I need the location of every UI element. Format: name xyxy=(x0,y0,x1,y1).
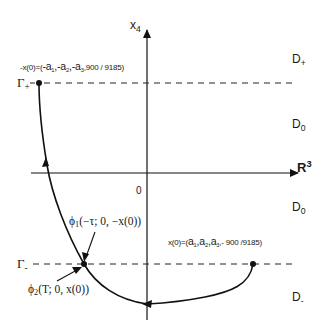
neg-x0-prefix: -x(0)=( xyxy=(20,63,42,72)
d0-lower-sub: 0 xyxy=(301,206,306,216)
trajectory-phi1 xyxy=(39,83,147,304)
phi2-pointer xyxy=(57,270,77,281)
phi1-pointer-arrow-icon xyxy=(82,252,89,262)
trajectory-up-arrow-icon xyxy=(42,157,49,167)
gamma-minus-main: Γ xyxy=(17,256,25,271)
region-d0-lower: D0 xyxy=(292,201,305,215)
neg-x0-a1: -a xyxy=(42,60,51,72)
region-d-plus: D+ xyxy=(292,53,306,67)
x0-label: x(0)=(a1,a2,a3,- 900 /9185) xyxy=(168,236,262,248)
neg-x0-a3: -a xyxy=(72,60,81,72)
r3-axis-label: R3 xyxy=(297,160,312,174)
r3-sup: 3 xyxy=(306,159,311,169)
region-d-minus: D- xyxy=(292,291,304,305)
x0-tail: ,- 900 /9185) xyxy=(219,238,262,247)
d-plus-main: D xyxy=(292,52,301,66)
neg-x0-label: -x(0)=(-a1,-a2,-a3,900 / 9185) xyxy=(20,61,124,73)
gamma-minus-label: Γ- xyxy=(17,257,28,273)
gamma-plus-main: Γ xyxy=(17,75,25,90)
x4-axis-label: x4 xyxy=(130,19,141,33)
gamma-plus-sub: + xyxy=(25,82,30,92)
phi1-args: (−τ; 0, −x(0)) xyxy=(79,215,141,227)
phi2-pointer-arrow-icon xyxy=(72,267,82,274)
phi1-pointer xyxy=(86,232,95,257)
gamma-plus-label: Γ+ xyxy=(17,76,30,92)
d0-upper-sub: 0 xyxy=(301,123,306,133)
d-plus-sub: + xyxy=(301,58,306,68)
neg-x0-tail: ,900 / 9185) xyxy=(84,63,124,72)
point-x0 xyxy=(250,261,256,267)
x4-sub: 4 xyxy=(136,24,141,34)
origin-label: 0 xyxy=(136,186,142,196)
phi2-args: (T; 0, x(0)) xyxy=(38,283,89,295)
d0-upper-main: D xyxy=(292,117,301,131)
point-neg-x0 xyxy=(36,80,42,86)
trajectory-phi2 xyxy=(147,264,253,304)
d-minus-sub: - xyxy=(301,296,304,306)
gamma-minus-sub: - xyxy=(25,263,28,273)
phi2-label: ϕ2(T; 0, x(0)) xyxy=(28,284,89,298)
region-d0-upper: D0 xyxy=(292,118,305,132)
r3-main: R xyxy=(297,160,306,175)
d-minus-main: D xyxy=(292,290,301,304)
d0-lower-main: D xyxy=(292,200,301,214)
phi1-label: ϕ1(−τ; 0, −x(0)) xyxy=(69,216,141,230)
x0-prefix: x(0)=( xyxy=(168,238,188,247)
neg-x0-a2: -a xyxy=(57,60,66,72)
